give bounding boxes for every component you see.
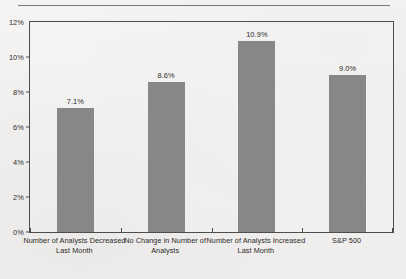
y-axis-tick	[26, 162, 30, 163]
bar	[238, 41, 275, 232]
x-axis-category-label-line: Number of Analysts Decreased	[23, 236, 125, 246]
x-axis-category-label: No Change in Number ofAnalysts	[124, 236, 206, 255]
x-axis-category-label-line: No Change in Number of	[124, 236, 206, 246]
chart-page: 0%2%4%6%8%10%12% 7.1%8.6%10.9%9.0% Numbe…	[0, 0, 406, 279]
x-axis-category-label: Number of Analysts DecreasedLast Month	[23, 236, 125, 255]
y-axis-tick	[26, 92, 30, 93]
x-axis-category-label: S&P 500	[332, 236, 361, 246]
bar-value-label: 8.6%	[158, 71, 175, 80]
bar-value-label: 10.9%	[246, 30, 267, 39]
y-axis-label: 4%	[13, 158, 24, 167]
x-axis-tick	[30, 228, 31, 232]
x-axis-category-label-line: Analysts	[124, 246, 206, 256]
y-axis-label: 10%	[9, 53, 24, 62]
y-axis-label: 6%	[13, 123, 24, 132]
bar	[329, 75, 366, 233]
plot-area: 0%2%4%6%8%10%12% 7.1%8.6%10.9%9.0%	[29, 21, 394, 233]
y-axis-label: 2%	[13, 193, 24, 202]
x-axis-tick	[212, 228, 213, 232]
y-axis-tick	[26, 127, 30, 128]
y-axis-tick	[26, 57, 30, 58]
y-axis-label: 0%	[13, 228, 24, 237]
bar-value-label: 9.0%	[339, 64, 356, 73]
x-axis-tick	[121, 228, 122, 232]
x-axis-category-label-line: Number of Analysts Increased	[207, 236, 306, 246]
y-axis-label: 12%	[9, 18, 24, 27]
x-axis-tick	[302, 228, 303, 232]
top-divider-rule	[18, 5, 390, 6]
x-axis-category-label: Number of Analysts IncreasedLast Month	[207, 236, 306, 255]
bar-value-label: 7.1%	[67, 97, 84, 106]
bar	[148, 82, 185, 233]
x-axis-category-label-line: S&P 500	[332, 236, 361, 246]
x-axis-category-label-line: Last Month	[23, 246, 125, 256]
y-axis-label: 8%	[13, 88, 24, 97]
x-axis-category-label-line: Last Month	[207, 246, 306, 256]
y-axis-tick	[26, 197, 30, 198]
x-axis-tick	[392, 228, 393, 232]
bar	[57, 108, 94, 232]
x-axis-category-labels: Number of Analysts DecreasedLast MonthNo…	[29, 236, 394, 266]
